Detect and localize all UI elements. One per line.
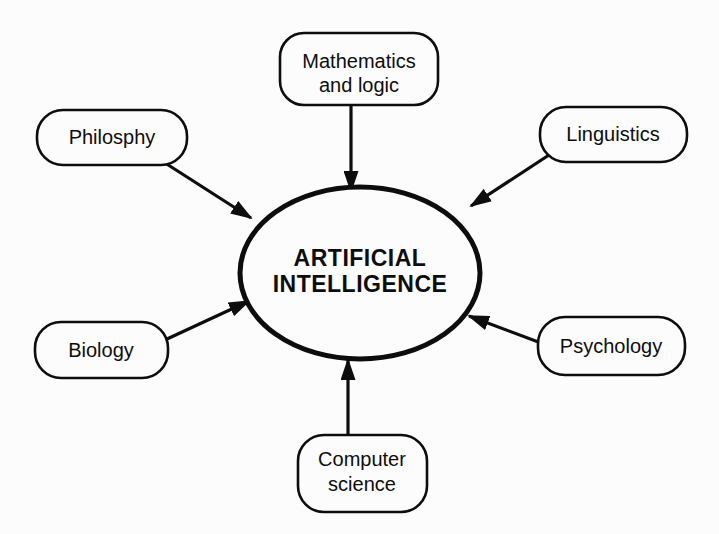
node-label-line1: Mathematics — [302, 50, 415, 72]
node-label: Biology — [68, 339, 134, 361]
arrow-psychology-to-center — [469, 316, 541, 343]
arrow-philosophy-to-center — [162, 161, 251, 218]
node-label: Psychology — [560, 335, 662, 357]
arrow-biology-to-center — [167, 301, 249, 339]
node-mathematics-and-logic: Mathematics and logic — [280, 33, 438, 105]
node-label-line2: science — [328, 473, 396, 495]
center-node-artificial-intelligence: ARTIFICIAL INTELLIGENCE — [240, 187, 480, 359]
node-philosophy: Philosphy — [37, 110, 187, 165]
arrow-linguistics-to-center — [471, 155, 549, 206]
center-label-line2: INTELLIGENCE — [273, 271, 448, 297]
node-biology: Biology — [35, 322, 168, 378]
node-label-line1: Computer — [318, 448, 406, 470]
node-linguistics: Linguistics — [540, 107, 687, 162]
node-psychology: Psychology — [538, 317, 685, 375]
node-computer-science: Computer science — [298, 435, 427, 512]
node-label: Linguistics — [566, 123, 659, 145]
center-label-line1: ARTIFICIAL — [294, 245, 427, 271]
node-label-line2: and logic — [319, 74, 399, 96]
ai-influences-diagram: ARTIFICIAL INTELLIGENCE Mathematics and … — [0, 0, 719, 534]
diagram-canvas: ARTIFICIAL INTELLIGENCE Mathematics and … — [0, 0, 719, 534]
node-label: Philosphy — [69, 126, 156, 148]
